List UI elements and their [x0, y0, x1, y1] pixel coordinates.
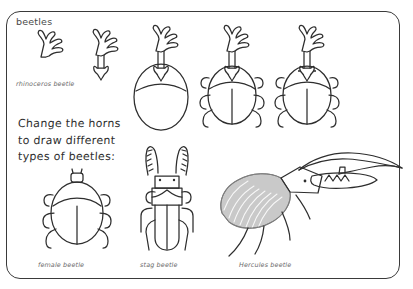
caption-female-beetle: female beetle [38, 261, 84, 269]
page-title: beetles [16, 16, 52, 27]
caption-stag-beetle: stag beetle [140, 261, 178, 269]
instruction-line-1: Change the horns [18, 116, 149, 133]
instruction-line-2: to draw different [18, 133, 149, 150]
caption-rhinoceros-beetle: rhinoceros beetle [16, 80, 74, 88]
worksheet-page: beetles [0, 0, 413, 289]
caption-hercules-beetle: Hercules beetle [239, 261, 291, 269]
instruction-line-3: types of beetles: [18, 149, 149, 166]
instruction-text: Change the horns to draw different types… [18, 116, 148, 166]
